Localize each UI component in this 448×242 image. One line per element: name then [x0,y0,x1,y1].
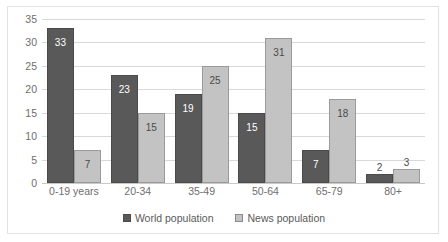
legend-label: World population [135,212,214,224]
bar-world[interactable]: 19 [175,94,202,183]
bar-group: 718 [297,19,361,183]
bar-value-label: 15 [239,123,264,133]
x-axis-tick-label: 80+ [361,185,425,197]
bar-group: 1531 [233,19,297,183]
bar-value-label: 15 [139,123,164,133]
x-axis-tick-label: 20-34 [106,185,170,197]
y-axis-tick-label: 10 [25,131,37,142]
legend-item-world-population[interactable]: World population [123,212,214,224]
legend-item-news-population[interactable]: News population [235,212,325,224]
x-axis-tick-label: 65-79 [297,185,361,197]
bar-news[interactable]: 18 [329,99,356,183]
bars-layer: 33723151925153171823 [42,19,425,183]
plot-area: 05101520253035 33723151925153171823 [42,19,425,183]
x-axis-tick-label: 35-49 [170,185,234,197]
bar-value-label: 7 [75,160,100,170]
bar-value-label: 18 [330,109,355,119]
y-axis-tick-label: 0 [31,178,37,189]
bar-value-label: 25 [203,76,228,86]
bar-group: 1925 [170,19,234,183]
legend-label: News population [247,212,325,224]
bar-world[interactable]: 7 [302,150,329,183]
legend-swatch-world-icon [123,214,131,222]
x-axis-tick-labels: 0-19 years20-3435-4950-6465-7980+ [42,185,425,197]
bar-news[interactable]: 25 [202,66,229,183]
bar-value-label: 23 [112,85,137,95]
bar-world[interactable]: 23 [111,75,138,183]
bar-value-label: 7 [303,160,328,170]
bar-world[interactable]: 2 [366,174,393,183]
legend-swatch-news-icon [235,214,243,222]
y-axis-tick-label: 20 [25,84,37,95]
chart-legend: World populationNews population [8,212,440,224]
y-axis-tick-label: 5 [31,154,37,165]
bar-group: 23 [361,19,425,183]
y-axis-tick-label: 25 [25,61,37,72]
bar-world[interactable]: 15 [238,113,265,183]
bar-value-label: 33 [48,38,73,48]
y-axis-tick-label: 35 [25,14,37,25]
bar-value-label: 19 [176,104,201,114]
bar-value-label: 3 [394,158,419,168]
x-axis-tick-label: 50-64 [233,185,297,197]
bar-news[interactable]: 7 [74,150,101,183]
bar-news[interactable]: 3 [393,169,420,183]
bar-news[interactable]: 31 [265,38,292,183]
bar-news[interactable]: 15 [138,113,165,183]
y-axis-tick-label: 15 [25,107,37,118]
x-axis-tick-label: 0-19 years [42,185,106,197]
bar-value-label: 2 [367,163,392,173]
bar-group: 2315 [106,19,170,183]
bar-group: 337 [42,19,106,183]
y-axis-tick-label: 30 [25,37,37,48]
gridline [42,183,425,184]
chart-container: 05101520253035 33723151925153171823 0-19… [7,6,439,234]
bar-world[interactable]: 33 [47,28,74,183]
bar-value-label: 31 [266,48,291,58]
